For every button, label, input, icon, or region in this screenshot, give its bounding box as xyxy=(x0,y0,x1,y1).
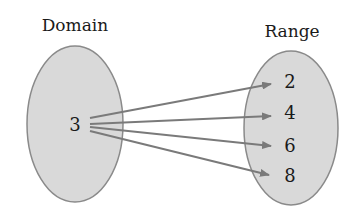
range-element-6: 6 xyxy=(284,135,295,156)
range-title: Range xyxy=(264,21,319,41)
range-element-4: 4 xyxy=(284,102,295,123)
range-element-8: 8 xyxy=(284,165,295,186)
domain-title: Domain xyxy=(42,15,109,35)
mapping-diagram: Domain Range 3 2 4 6 8 xyxy=(0,0,359,211)
domain-element-3: 3 xyxy=(69,114,80,135)
range-element-2: 2 xyxy=(284,71,295,92)
